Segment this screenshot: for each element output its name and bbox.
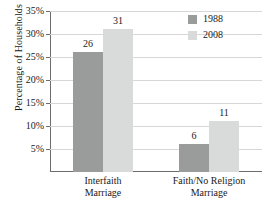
y-axis-tick-label: 15% xyxy=(26,98,44,108)
bar-1988-1 xyxy=(179,144,209,172)
y-axis-tick xyxy=(46,57,50,58)
plot-area: 5%10%15%20%25%30%35% 2631611 InterfaithM… xyxy=(50,11,262,172)
y-axis-tick-label: 20% xyxy=(26,75,44,85)
y-axis-title: Percentage of Households xyxy=(13,0,24,128)
x-axis-category-label: Faith/No ReligionMarriage xyxy=(173,175,246,198)
gridline xyxy=(50,34,262,35)
legend-item-1988: 1988 xyxy=(188,14,223,24)
bar-value-label: 6 xyxy=(192,131,197,141)
y-axis-tick-label: 30% xyxy=(26,29,44,39)
legend-label-1988: 1988 xyxy=(203,14,223,24)
y-axis-tick-label: 10% xyxy=(26,121,44,131)
y-axis-tick-label: 35% xyxy=(26,6,44,16)
y-axis-tick xyxy=(46,126,50,127)
y-axis-tick xyxy=(46,80,50,81)
legend-item-2008: 2008 xyxy=(188,30,223,40)
y-axis-tick xyxy=(46,103,50,104)
y-axis-tick xyxy=(46,149,50,150)
x-axis-category-line: Faith/No Religion xyxy=(173,175,246,187)
legend-swatch-icon-1988 xyxy=(188,15,197,24)
legend-swatch-icon-2008 xyxy=(188,31,197,40)
gridline xyxy=(50,11,262,12)
x-axis-category-label: InterfaithMarriage xyxy=(84,175,121,198)
x-axis-category-line: Marriage xyxy=(84,187,121,199)
y-axis-tick xyxy=(46,11,50,12)
bar-2008-0 xyxy=(103,29,133,172)
y-axis-tick-label: 5% xyxy=(31,144,44,154)
bar-2008-1 xyxy=(209,121,239,172)
bar-value-label: 11 xyxy=(219,108,229,118)
x-axis-category-line: Marriage xyxy=(173,187,246,199)
y-axis-tick-label: 25% xyxy=(26,52,44,62)
legend-label-2008: 2008 xyxy=(203,30,223,40)
y-axis-line xyxy=(50,11,51,172)
y-axis-tick xyxy=(46,34,50,35)
bar-1988-0 xyxy=(73,52,103,172)
x-axis-category-line: Interfaith xyxy=(84,175,121,187)
bar-value-label: 26 xyxy=(83,39,93,49)
bar-value-label: 31 xyxy=(113,16,123,26)
bar-chart: Percentage of Households 5%10%15%20%25%3… xyxy=(0,0,266,205)
legend: 1988 2008 xyxy=(188,14,223,46)
